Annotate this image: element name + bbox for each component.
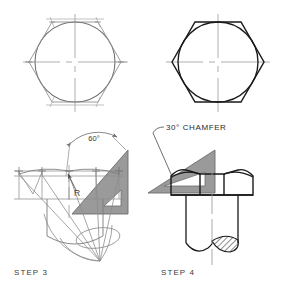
drawing-canvas: 60°	[0, 0, 290, 293]
step-3-label: STEP 3	[14, 268, 48, 277]
step3-angle-label: 60°	[88, 134, 99, 143]
step-4-label: STEP 4	[161, 268, 195, 277]
step4-chamfer-label: 30° CHAMFER	[166, 123, 226, 132]
step3-radius-label: R	[74, 188, 80, 198]
technical-drawing-page: 60°	[0, 0, 290, 293]
canvas-background	[0, 0, 290, 293]
